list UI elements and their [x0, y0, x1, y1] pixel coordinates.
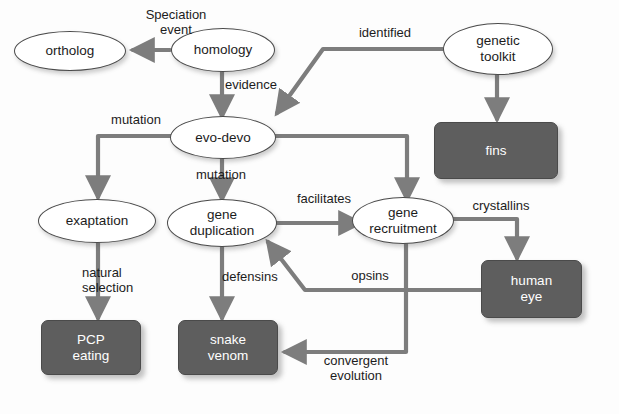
node-homology-label: homology — [194, 42, 253, 58]
edge-label-speciation-event: Speciation event — [126, 8, 226, 38]
edge-label-identified: identified — [345, 26, 425, 41]
node-genetic-toolkit[interactable]: genetic toolkit — [443, 23, 553, 75]
diagram-canvas: ortholog homology genetic toolkit evo-de… — [0, 0, 619, 414]
node-exaptation-label: exaptation — [66, 213, 128, 229]
edge-label-mutation-left: mutation — [96, 113, 176, 128]
edge-label-crystallins: crystallins — [459, 199, 543, 214]
node-human-eye-label: human eye — [511, 273, 552, 305]
edge-label-facilitates: facilitates — [284, 192, 364, 207]
edge-label-natural-selection: natural selection — [82, 266, 162, 296]
node-gene-duplication-label: gene duplication — [190, 207, 255, 239]
node-exaptation[interactable]: exaptation — [38, 199, 156, 243]
node-fins[interactable]: fins — [434, 122, 558, 179]
edge-label-evidence: evidence — [225, 78, 305, 93]
node-pcp-eating[interactable]: PCP eating — [41, 320, 141, 375]
edge-label-opsins: opsins — [338, 269, 402, 284]
node-gene-duplication[interactable]: gene duplication — [167, 199, 277, 247]
node-evo-devo[interactable]: evo-devo — [170, 116, 276, 159]
node-ortholog[interactable]: ortholog — [14, 31, 126, 71]
edge-label-convergent-evolution: convergent evolution — [306, 354, 406, 384]
node-fins-label: fins — [485, 143, 506, 159]
edge-label-mutation-center: mutation — [196, 168, 276, 183]
node-gene-recruitment-label: gene recruitment — [369, 205, 437, 237]
node-human-eye[interactable]: human eye — [481, 260, 582, 318]
node-snake-venom[interactable]: snake venom — [178, 320, 278, 375]
node-ortholog-label: ortholog — [46, 43, 95, 59]
node-gene-recruitment[interactable]: gene recruitment — [352, 197, 454, 244]
edge-evodevo-exaptation — [98, 136, 171, 197]
edge-generecruitment-snakevenom — [285, 243, 406, 352]
node-evo-devo-label: evo-devo — [195, 130, 251, 146]
node-genetic-toolkit-label: genetic toolkit — [476, 33, 520, 65]
edge-label-defensins: defensins — [222, 270, 302, 285]
node-snake-venom-label: snake venom — [208, 332, 249, 364]
edge-generecruitment-humaneye — [452, 219, 517, 258]
edge-evodevo-generecruitment — [274, 136, 407, 199]
node-pcp-eating-label: PCP eating — [73, 332, 110, 364]
